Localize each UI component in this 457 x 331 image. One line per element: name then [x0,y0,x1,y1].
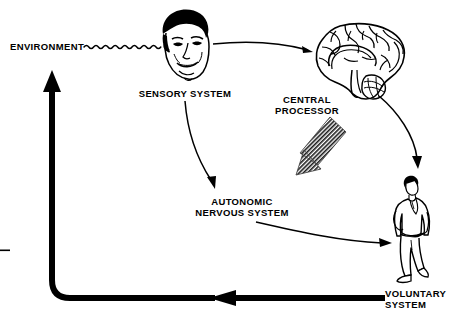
label-autonomic-line2: NERVOUS SYSTEM [186,207,298,219]
label-voluntary-line1: VOLUNTARY [385,288,446,300]
label-central-processor-line2: PROCESSOR [268,105,346,117]
connection-central-to-autonomic [296,117,346,175]
label-voluntary-line2: SYSTEM [385,299,426,311]
label-environment: ENVIRONMENT [10,41,84,53]
connection-autonomic-to-voluntary [256,222,392,247]
label-autonomic-line1: AUTONOMIC [186,196,298,208]
page-edge-tick [0,250,10,252]
connection-environment-to-sensory [84,45,161,48]
label-sensory-system: SENSORY SYSTEM [124,88,246,100]
human-face-icon [163,10,209,81]
label-central-processor-line1: CENTRAL [268,94,346,106]
walking-man-icon [394,176,430,283]
connection-sensory-to-central [213,42,313,53]
connection-sensory-to-autonomic [185,101,216,189]
diagram-canvas: ENVIRONMENT SENSORY SYSTEM CENTRAL PROCE… [0,0,457,331]
brain-icon [316,24,404,99]
connection-central-to-voluntary [379,96,422,169]
